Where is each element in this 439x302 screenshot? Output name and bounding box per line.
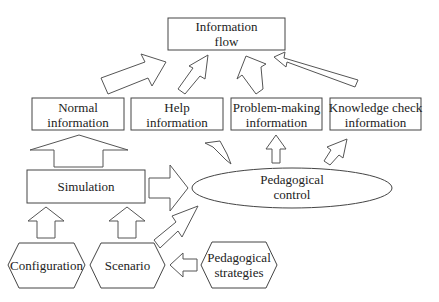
information-flow-label: Information xyxy=(195,19,258,34)
node-knowledge-check-information: Knowledge check information xyxy=(329,98,423,130)
arrow-control-to-knowledge xyxy=(324,139,347,165)
knowledge-check-information-label-2: information xyxy=(345,115,407,130)
normal-information-label-2: information xyxy=(47,115,109,130)
node-pedagogical-control: Pedagogical control xyxy=(192,168,392,208)
arrow-help-to-flow xyxy=(178,55,208,94)
arrow-normal-to-flow xyxy=(101,54,166,94)
help-information-label-2: information xyxy=(146,115,208,130)
scenario-label: Scenario xyxy=(105,258,150,273)
information-flow-label-2: flow xyxy=(215,34,239,49)
problem-making-information-label-2: information xyxy=(246,115,308,130)
configuration-label: Configuration xyxy=(10,258,83,273)
node-help-information: Help information xyxy=(131,98,223,130)
pedagogical-diagram: Information flow Normal information Help… xyxy=(0,0,439,302)
arrow-problem-to-flow xyxy=(237,56,266,94)
arrow-knowledge-to-flow xyxy=(274,52,358,87)
arrow-simulation-to-control xyxy=(149,165,188,211)
node-configuration: Configuration xyxy=(8,243,85,288)
pedagogical-strategies-label-2: strategies xyxy=(214,265,263,280)
arrow-configuration-to-simulation xyxy=(28,207,64,238)
problem-making-information-label: Problem-making xyxy=(233,100,321,115)
node-information-flow: Information flow xyxy=(168,18,285,50)
pedagogical-control-label-2: control xyxy=(274,187,311,202)
node-normal-information: Normal information xyxy=(32,98,124,130)
arrow-control-to-problem xyxy=(266,135,286,163)
normal-information-label: Normal xyxy=(58,100,98,115)
node-simulation: Simulation xyxy=(27,170,145,203)
arrow-control-to-help xyxy=(205,141,231,164)
arrow-scenario-to-control xyxy=(154,206,198,248)
arrow-strategies-to-scenario xyxy=(170,253,197,277)
pedagogical-strategies-label: Pedagogical xyxy=(207,250,271,265)
simulation-label: Simulation xyxy=(57,179,115,194)
arrow-simulation-to-normal xyxy=(30,135,128,167)
node-problem-making-information: Problem-making information xyxy=(231,98,322,130)
node-pedagogical-strategies: Pedagogical strategies xyxy=(201,242,277,288)
knowledge-check-information-label: Knowledge check xyxy=(329,100,423,115)
pedagogical-control-label: Pedagogical xyxy=(260,172,324,187)
help-information-label: Help xyxy=(164,100,189,115)
node-scenario: Scenario xyxy=(90,243,165,288)
arrow-scenario-to-simulation xyxy=(109,207,145,238)
